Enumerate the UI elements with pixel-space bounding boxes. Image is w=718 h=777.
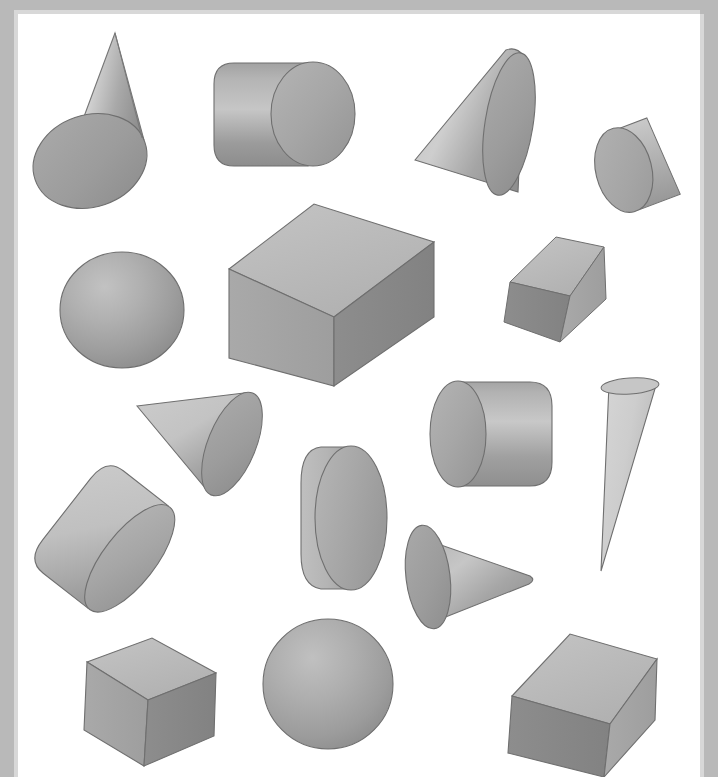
figure-canvas <box>0 0 718 777</box>
cylinder-1-cap <box>271 62 355 166</box>
shape-cone-5[interactable] <box>400 523 533 632</box>
sphere-2-body <box>263 619 393 749</box>
cone-4-body <box>601 379 657 571</box>
shape-disc-1[interactable] <box>585 110 696 219</box>
cone-1-base <box>20 99 160 224</box>
shapes-svg <box>18 14 700 777</box>
shape-sphere-1[interactable] <box>60 252 184 368</box>
shape-cylinder-1[interactable] <box>214 62 355 166</box>
shape-cube-2[interactable] <box>504 237 606 342</box>
shape-sphere-2[interactable] <box>263 619 393 749</box>
shapes-panel <box>18 14 700 777</box>
shape-cylinder-4[interactable] <box>27 458 191 626</box>
frame-right-highlight <box>700 14 704 777</box>
shape-cube-3[interactable] <box>84 638 216 766</box>
sphere-1-body <box>60 252 184 368</box>
shape-cone-4[interactable] <box>601 376 660 571</box>
cylinder-2-cap <box>430 381 486 487</box>
shape-cone-2[interactable] <box>415 49 544 199</box>
shape-cylinder-2[interactable] <box>430 381 552 487</box>
shape-cone-3[interactable] <box>137 384 275 504</box>
cylinder-3-face <box>315 446 387 590</box>
shape-cone-1[interactable] <box>20 33 160 223</box>
shape-cube-1[interactable] <box>229 204 434 386</box>
shape-cube-4[interactable] <box>508 634 657 777</box>
shape-cylinder-3[interactable] <box>301 446 387 590</box>
